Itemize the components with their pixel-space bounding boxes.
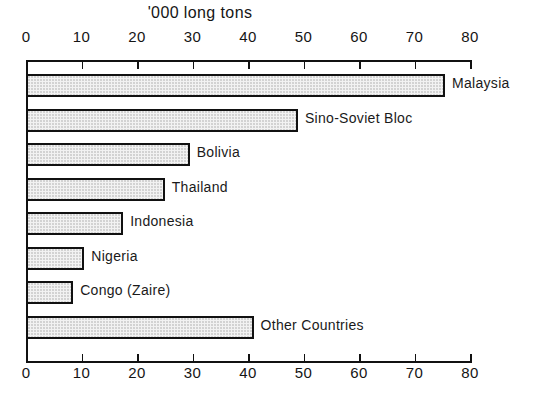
bar-group: Malaysia <box>26 74 470 97</box>
x-tick-label: 40 <box>239 28 256 45</box>
x-tick-label: 80 <box>461 28 478 45</box>
bar[interactable] <box>26 281 73 304</box>
x-axis-tick-labels-bottom: 01020304050607080 <box>0 364 549 384</box>
bar-label: Nigeria <box>91 248 137 264</box>
bar[interactable] <box>26 247 84 270</box>
bar[interactable] <box>26 143 190 166</box>
x-tick-label: 10 <box>73 364 90 381</box>
bar-label: Other Countries <box>261 317 364 333</box>
x-tick-label: 0 <box>22 28 31 45</box>
x-tick-label: 70 <box>406 28 423 45</box>
x-tick-label: 40 <box>239 364 256 381</box>
bar-group: Sino-Soviet Bloc <box>26 109 470 132</box>
bar[interactable] <box>26 178 165 201</box>
bar-label: Malaysia <box>452 75 510 91</box>
x-tick-label: 30 <box>184 364 201 381</box>
x-tick-label: 0 <box>22 364 31 381</box>
bar-group: Indonesia <box>26 212 470 235</box>
bar[interactable] <box>26 212 123 235</box>
plot-area: MalaysiaSino-Soviet BlocBoliviaThailandI… <box>26 60 470 363</box>
chart-title: '000 long tons <box>0 4 400 22</box>
x-tick-label: 60 <box>350 364 367 381</box>
x-tick-label: 70 <box>406 364 423 381</box>
x-tick-label: 60 <box>350 28 367 45</box>
bar[interactable] <box>26 109 298 132</box>
x-tick-label: 50 <box>295 28 312 45</box>
bar[interactable] <box>26 74 445 97</box>
bar-group: Nigeria <box>26 247 470 270</box>
bars-layer: MalaysiaSino-Soviet BlocBoliviaThailandI… <box>26 60 470 363</box>
x-tick-label: 20 <box>128 364 145 381</box>
bar-label: Bolivia <box>197 144 240 160</box>
bar-label: Congo (Zaire) <box>80 282 170 298</box>
x-axis-tick-labels-top: 01020304050607080 <box>0 28 549 48</box>
x-tick-label: 50 <box>295 364 312 381</box>
x-tick-label: 30 <box>184 28 201 45</box>
bar-label: Sino-Soviet Bloc <box>305 110 413 126</box>
bar-label: Thailand <box>172 179 228 195</box>
x-tick-mark <box>470 354 472 363</box>
x-tick-label: 10 <box>73 28 90 45</box>
bar-label: Indonesia <box>130 213 193 229</box>
bar-group: Other Countries <box>26 316 470 339</box>
bar-group: Bolivia <box>26 143 470 166</box>
bar[interactable] <box>26 316 254 339</box>
x-tick-mark <box>470 60 472 69</box>
x-tick-label: 20 <box>128 28 145 45</box>
bar-group: Thailand <box>26 178 470 201</box>
bar-group: Congo (Zaire) <box>26 281 470 304</box>
bar-chart: '000 long tons 01020304050607080 Malaysi… <box>0 0 549 405</box>
x-tick-label: 80 <box>461 364 478 381</box>
